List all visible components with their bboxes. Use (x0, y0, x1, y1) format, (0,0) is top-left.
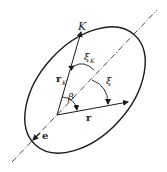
label-beta: β (67, 91, 74, 102)
unit-vector-e (33, 133, 40, 140)
label-xiK-sub: K (89, 57, 95, 64)
label-xi: ξ (106, 75, 112, 86)
ellipse-vector-diagram: K r K ξ K ξ β r e (0, 0, 167, 172)
label-e: e (42, 130, 48, 141)
label-K: K (77, 20, 87, 33)
label-r: r (86, 112, 92, 123)
label-rK-sub: K (61, 79, 67, 86)
angle-xiK-arc (74, 64, 94, 70)
